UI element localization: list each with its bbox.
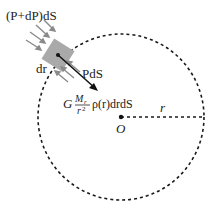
top-pressure-label: (P+dP)dS — [6, 8, 57, 23]
gravity-r-sup: 2 — [82, 105, 86, 113]
gravity-rest: ρ(r)drdS — [92, 97, 133, 111]
thickness-label: dr — [36, 61, 48, 76]
bottom-pressure-label: PdS — [82, 66, 103, 81]
stellar-element-diagram: (P+dP)dS PdS dr G M r r 2 ρ(r)drdS O r — [0, 0, 218, 216]
gravity-r: r — [77, 105, 81, 116]
radius-label: r — [160, 100, 166, 115]
gravity-M: M — [74, 93, 84, 104]
gravity-G: G — [63, 96, 73, 111]
center-point — [119, 115, 123, 119]
center-label: O — [116, 121, 126, 136]
